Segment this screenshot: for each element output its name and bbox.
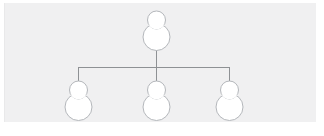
org-node-child-2-label	[141, 80, 142, 81]
org-chart-diagram: Organization hierarchy	[4, 3, 316, 122]
org-node-child-1[interactable]	[64, 81, 100, 121]
org-node-root-label	[141, 10, 142, 11]
org-node-child-2[interactable]	[142, 81, 178, 121]
screenshot-canvas: Organization hierarchy	[0, 0, 324, 136]
connector-group	[79, 48, 230, 82]
org-node-child-1-label	[63, 80, 64, 81]
org-node-root[interactable]	[142, 11, 178, 51]
org-node-child-3-label	[214, 80, 215, 81]
org-node-child-3[interactable]	[215, 81, 251, 121]
diagram-panel: Organization hierarchy	[4, 3, 316, 122]
